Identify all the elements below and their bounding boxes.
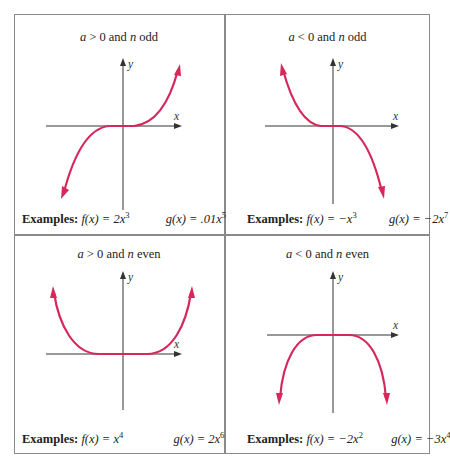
g-exp: 6 <box>220 430 224 440</box>
f-exp: 3 <box>352 210 356 220</box>
g-body: .01x <box>201 212 222 226</box>
g-body: −2x <box>424 212 444 226</box>
y-label: y <box>337 58 344 71</box>
y-axis-arrow-icon <box>330 271 336 279</box>
curve-arrow-down-icon <box>61 186 69 199</box>
g-name: g(x) = <box>166 212 201 226</box>
example-g: g(x) = −2x7 <box>389 212 448 226</box>
g-name: g(x) = <box>391 432 426 446</box>
y-label: y <box>127 271 134 284</box>
panel-a-neg-n-even: a < 0 and n even y x Examples: f(x) = −2… <box>225 235 430 454</box>
examples-label: Examples: <box>247 432 303 446</box>
example-g: g(x) = −3x4 <box>391 432 450 446</box>
g-body: −3x <box>426 432 446 446</box>
y-axis-arrow-icon <box>120 271 126 279</box>
examples-line: Examples: f(x) = 2x3 g(x) = .01x5 <box>22 210 226 227</box>
f-body: −2x <box>338 432 358 446</box>
panel-a-neg-n-odd: a < 0 and n odd y x Examples: f(x) = −x3… <box>225 14 430 234</box>
f-exp: 2 <box>359 430 363 440</box>
x-axis-arrow-icon <box>391 332 399 338</box>
panel-a-pos-n-even: a > 0 and n even y x Examples: f(x) = x4… <box>14 235 224 454</box>
y-label: y <box>127 58 134 71</box>
f-body: 2x <box>113 212 125 226</box>
y-axis-arrow-icon <box>330 58 336 66</box>
example-f: f(x) = −2x2 <box>306 432 363 446</box>
graph-even-negative: y x <box>225 235 430 454</box>
curve-arrow-down-icon <box>378 186 385 199</box>
curve-arrow-right-down-icon <box>383 393 390 405</box>
g-body: 2x <box>208 432 220 446</box>
curve-arrow-right-up-icon <box>188 286 195 298</box>
examples-line: Examples: f(x) = −2x2 g(x) = −3x4 <box>247 430 450 447</box>
g-name: g(x) = <box>173 432 208 446</box>
x-label: x <box>392 110 399 122</box>
curve-arrow-left-down-icon <box>276 393 283 405</box>
x-axis-arrow-icon <box>391 123 399 129</box>
x-label: x <box>173 110 180 122</box>
example-f: f(x) = 2x3 <box>81 212 129 226</box>
example-f: f(x) = x4 <box>81 432 123 446</box>
x-label: x <box>392 319 399 331</box>
f-exp: 4 <box>119 430 123 440</box>
example-g: g(x) = .01x5 <box>166 212 226 226</box>
f-body: −x <box>338 212 352 226</box>
x-axis-arrow-icon <box>174 123 182 129</box>
y-axis-arrow-icon <box>120 58 126 66</box>
g-name: g(x) = <box>389 212 424 226</box>
f-exp: 3 <box>125 210 129 220</box>
examples-label: Examples: <box>22 432 78 446</box>
f-name: f(x) = <box>306 432 338 446</box>
graph-cubic-positive: y x <box>14 14 224 234</box>
y-label: y <box>337 271 344 284</box>
f-name: f(x) = <box>81 432 113 446</box>
examples-label: Examples: <box>22 212 78 226</box>
panel-a-pos-n-odd: a > 0 and n odd y x Examples: f(x) = 2x3… <box>14 14 224 234</box>
examples-line: Examples: f(x) = x4 g(x) = 2x6 <box>22 430 224 447</box>
examples-line: Examples: f(x) = −x3 g(x) = −2x7 <box>247 210 448 227</box>
example-f: f(x) = −x3 <box>306 212 356 226</box>
g-exp: 7 <box>444 210 448 220</box>
curve-path <box>64 70 178 192</box>
curve-arrow-up-icon <box>280 63 287 76</box>
curve-arrow-up-icon <box>174 64 181 76</box>
examples-label: Examples: <box>247 212 303 226</box>
graph-even-positive: y x <box>14 235 224 454</box>
g-exp: 4 <box>446 430 450 440</box>
curve-arrow-left-up-icon <box>50 286 57 298</box>
example-g: g(x) = 2x6 <box>173 432 224 446</box>
x-axis-arrow-icon <box>174 351 182 357</box>
f-name: f(x) = <box>306 212 338 226</box>
f-name: f(x) = <box>81 212 113 226</box>
graph-cubic-negative: y x <box>225 14 430 234</box>
